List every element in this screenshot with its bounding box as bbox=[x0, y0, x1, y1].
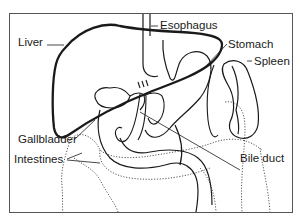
label-liver: Liver bbox=[18, 37, 43, 49]
anatomy-diagram bbox=[0, 0, 300, 220]
gallbladder-shape bbox=[95, 80, 164, 142]
label-esophagus: Esophagus bbox=[160, 20, 218, 32]
spleen-shape bbox=[222, 61, 258, 139]
liver-shape bbox=[53, 25, 222, 138]
label-stomach: Stomach bbox=[228, 39, 273, 51]
spleen-ring bbox=[207, 65, 218, 137]
esophagus-shape bbox=[143, 14, 158, 77]
duodenum-shape bbox=[98, 110, 212, 212]
label-gallbladder: Gallbladder bbox=[18, 134, 77, 146]
label-intestines: Intestines bbox=[14, 154, 63, 166]
stomach-shape bbox=[145, 40, 211, 137]
label-bile-duct: Bile duct bbox=[240, 153, 284, 165]
label-spleen: Spleen bbox=[254, 56, 290, 68]
